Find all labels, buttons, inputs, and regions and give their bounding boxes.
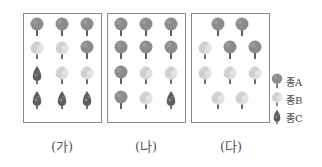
round-tree-icon: [79, 40, 95, 60]
legend-label-a: 종A: [286, 74, 302, 89]
round-tree-icon: [138, 17, 154, 37]
light-tree-icon: [138, 65, 154, 85]
round-tree-icon: [163, 17, 179, 37]
light-tree-icon: [247, 65, 263, 85]
light-tree-icon: [210, 90, 226, 110]
conifer-tree-icon: [54, 90, 70, 110]
conifer-tree-icon: [79, 90, 95, 110]
legend-label-c: 종C: [286, 110, 303, 125]
light-tree-icon: [29, 40, 45, 60]
round-tree-icon: [79, 17, 95, 37]
legend-label-b: 종B: [286, 92, 302, 107]
round-tree-icon: [54, 17, 70, 37]
light-tree-icon: [270, 91, 284, 107]
light-tree-icon: [54, 40, 70, 60]
light-tree-icon: [222, 65, 238, 85]
light-tree-icon: [138, 90, 154, 110]
light-tree-icon: [54, 65, 70, 85]
light-tree-icon: [163, 65, 179, 85]
legend-item-a: 종A: [270, 73, 302, 89]
conifer-tree-icon: [270, 109, 284, 125]
round-tree-icon: [247, 40, 263, 60]
legend-item-b: 종B: [270, 91, 302, 107]
light-tree-icon: [197, 65, 213, 85]
round-tree-icon: [113, 17, 129, 37]
round-tree-icon: [138, 40, 154, 60]
round-tree-icon: [222, 40, 238, 60]
panel-label-na: (나): [135, 136, 157, 155]
round-tree-icon: [113, 65, 129, 85]
round-tree-icon: [163, 40, 179, 60]
panel-label-da: (다): [220, 136, 242, 155]
legend-item-c: 종C: [270, 109, 303, 125]
panel-label-ga: (가): [51, 136, 73, 155]
round-tree-icon: [113, 90, 129, 110]
round-tree-icon: [210, 17, 226, 37]
conifer-tree-icon: [163, 90, 179, 110]
light-tree-icon: [197, 40, 213, 60]
round-tree-icon: [234, 17, 250, 37]
round-tree-icon: [270, 73, 284, 89]
round-tree-icon: [29, 17, 45, 37]
light-tree-icon: [234, 90, 250, 110]
round-tree-icon: [113, 40, 129, 60]
light-tree-icon: [79, 65, 95, 85]
conifer-tree-icon: [29, 90, 45, 110]
conifer-tree-icon: [29, 65, 45, 85]
